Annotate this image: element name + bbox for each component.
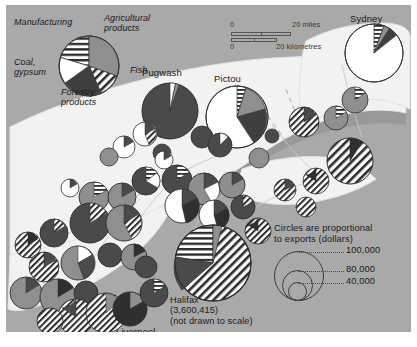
scale-miles-value: 20 miles xyxy=(292,21,320,29)
halifax-annotation: Halifax (3,600,415) (not drawn to scale) xyxy=(170,295,253,326)
pie-halifax xyxy=(174,225,251,301)
place-label-pictou: Pictou xyxy=(214,74,241,85)
key-label-manufacturing: Manufacturing xyxy=(14,17,72,27)
key-label-coal: Coal, gypsum xyxy=(14,57,46,77)
pie-sydney xyxy=(345,24,403,82)
legend-leader-100000 xyxy=(299,252,344,253)
place-label-liverpool: Liverpool xyxy=(116,327,155,332)
scale-km-value: 20 kilometres xyxy=(276,43,321,51)
legend-value-80000: 80,000 xyxy=(346,264,375,274)
key-label-agricultural: Agricultural products xyxy=(104,13,150,33)
halifax-name: Halifax xyxy=(170,295,253,305)
place-label-sydney: Sydney xyxy=(350,14,382,25)
legend-caption-line1: Circles are proportional xyxy=(274,223,373,233)
map-canvas[interactable]: Manufacturing Agricultural products Fish… xyxy=(6,5,411,332)
halifax-value: (3,600,415) xyxy=(170,305,253,315)
place-label-pugwash: Pugwash xyxy=(142,68,182,79)
map-figure: Manufacturing Agricultural products Fish… xyxy=(0,0,417,347)
key-label-forestry: Forestry products xyxy=(61,87,96,107)
scale-tick-km-mid xyxy=(254,38,255,42)
scale-tick-miles-mid xyxy=(261,32,262,36)
scale-miles-zero: 0 xyxy=(230,21,234,29)
legend-value-40000: 40,000 xyxy=(346,276,375,286)
legend-circle-40000 xyxy=(288,282,307,301)
legend-leader-80000 xyxy=(298,271,344,272)
legend-caption-line2: to exports (dollars) xyxy=(274,234,353,244)
legend-value-100000: 100,000 xyxy=(346,245,380,255)
halifax-scale-note: (not drawn to scale) xyxy=(170,316,253,326)
scale-km-zero: 0 xyxy=(230,43,234,51)
legend-leader-40000 xyxy=(298,283,344,284)
